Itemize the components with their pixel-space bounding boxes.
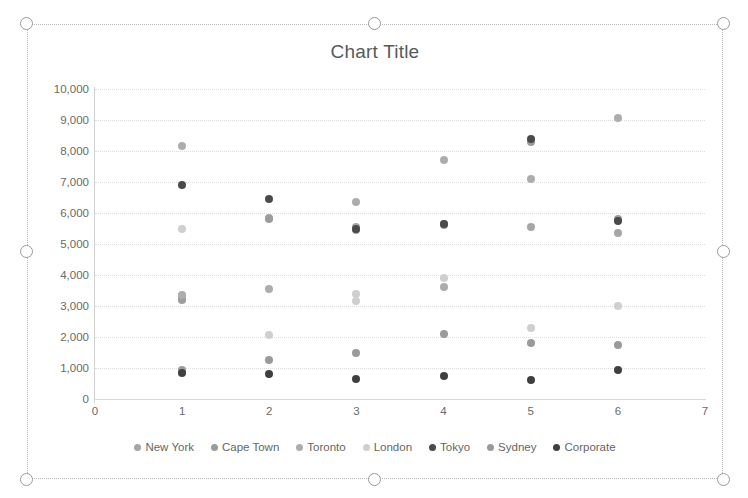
legend-item-toronto[interactable]: Toronto: [296, 442, 345, 454]
chart-title[interactable]: Chart Title: [27, 41, 723, 63]
gridline: [95, 89, 705, 90]
legend-label: New York: [145, 442, 194, 454]
data-point-toronto[interactable]: [178, 291, 186, 299]
data-point-london[interactable]: [614, 302, 622, 310]
x-axis-tick-label: 4: [440, 405, 446, 417]
data-point-tokyo[interactable]: [265, 195, 273, 203]
x-axis-tick-label: 1: [179, 405, 185, 417]
data-point-london[interactable]: [527, 324, 535, 332]
y-axis-tick-label: 5,000: [31, 238, 89, 250]
data-point-corporate[interactable]: [614, 366, 622, 374]
legend-marker-icon: [429, 444, 436, 451]
data-point-sydney[interactable]: [527, 339, 535, 347]
data-point-tokyo[interactable]: [527, 135, 535, 143]
chart-object[interactable]: Chart Title 10,0009,0008,0007,0006,0005,…: [27, 24, 723, 479]
y-axis-tick-label: 3,000: [31, 300, 89, 312]
legend-marker-icon: [553, 444, 560, 451]
legend-label: Sydney: [498, 442, 536, 454]
y-axis-tick-label: 2,000: [31, 331, 89, 343]
resize-handle-middle-right[interactable]: [717, 245, 730, 258]
gridline: [95, 182, 705, 183]
data-point-new-york[interactable]: [527, 223, 535, 231]
y-axis-tick-label: 9,000: [31, 114, 89, 126]
data-point-corporate[interactable]: [352, 375, 360, 383]
y-axis-tick-label: 10,000: [31, 83, 89, 95]
legend-item-tokyo[interactable]: Tokyo: [429, 442, 470, 454]
y-axis-tick-label: 0: [31, 393, 89, 405]
gridline: [95, 275, 705, 276]
y-axis-tick-labels: 10,0009,0008,0007,0006,0005,0004,0003,00…: [27, 89, 89, 399]
y-axis-tick-label: 7,000: [31, 176, 89, 188]
legend-marker-icon: [487, 444, 494, 451]
resize-handle-bottom-left[interactable]: [20, 473, 33, 486]
top-edge-artifact: [0, 0, 748, 12]
data-point-tokyo[interactable]: [178, 181, 186, 189]
data-point-sydney[interactable]: [352, 349, 360, 357]
data-point-cape-town[interactable]: [265, 215, 273, 223]
chart-legend[interactable]: New YorkCape TownTorontoLondonTokyoSydne…: [27, 442, 723, 454]
legend-label: Corporate: [564, 442, 615, 454]
data-point-toronto[interactable]: [614, 114, 622, 122]
resize-handle-middle-left[interactable]: [20, 245, 33, 258]
y-axis-tick-label: 8,000: [31, 145, 89, 157]
data-point-sydney[interactable]: [440, 330, 448, 338]
data-point-toronto[interactable]: [440, 283, 448, 291]
data-point-corporate[interactable]: [527, 376, 535, 384]
data-point-tokyo[interactable]: [440, 220, 448, 228]
x-axis-tick-label: 5: [528, 405, 534, 417]
data-point-toronto[interactable]: [178, 142, 186, 150]
data-point-london[interactable]: [178, 225, 186, 233]
plot-area[interactable]: [95, 89, 705, 399]
gridline: [95, 244, 705, 245]
data-point-corporate[interactable]: [440, 372, 448, 380]
x-axis-tick-label: 7: [702, 405, 708, 417]
legend-label: Cape Town: [222, 442, 279, 454]
x-axis-tick-label: 2: [266, 405, 272, 417]
y-axis-tick-label: 1,000: [31, 362, 89, 374]
legend-label: Toronto: [307, 442, 345, 454]
resize-handle-bottom-middle[interactable]: [368, 473, 381, 486]
y-axis-tick-label: 4,000: [31, 269, 89, 281]
y-axis-tick-label: 6,000: [31, 207, 89, 219]
data-point-sydney[interactable]: [614, 341, 622, 349]
data-point-toronto[interactable]: [440, 156, 448, 164]
gridline: [95, 337, 705, 338]
data-point-london[interactable]: [352, 297, 360, 305]
gridline: [95, 151, 705, 152]
x-axis-tick-labels: 01234567: [95, 405, 705, 423]
data-point-london[interactable]: [265, 331, 273, 339]
resize-handle-top-right[interactable]: [717, 17, 730, 30]
x-axis-tick-label: 0: [92, 405, 98, 417]
resize-handle-bottom-right[interactable]: [717, 473, 730, 486]
legend-label: London: [374, 442, 412, 454]
data-point-toronto[interactable]: [265, 285, 273, 293]
legend-marker-icon: [134, 444, 141, 451]
legend-item-london[interactable]: London: [363, 442, 412, 454]
legend-marker-icon: [211, 444, 218, 451]
legend-item-sydney[interactable]: Sydney: [487, 442, 536, 454]
data-point-toronto[interactable]: [527, 175, 535, 183]
data-point-toronto[interactable]: [352, 198, 360, 206]
gridline: [95, 213, 705, 214]
legend-label: Tokyo: [440, 442, 470, 454]
data-point-tokyo[interactable]: [614, 217, 622, 225]
legend-item-new-york[interactable]: New York: [134, 442, 194, 454]
x-axis-tick-label: 3: [353, 405, 359, 417]
legend-marker-icon: [363, 444, 370, 451]
legend-item-corporate[interactable]: Corporate: [553, 442, 615, 454]
data-point-sydney[interactable]: [265, 356, 273, 364]
data-point-corporate[interactable]: [178, 369, 186, 377]
resize-handle-top-middle[interactable]: [368, 17, 381, 30]
x-axis-line: [95, 399, 706, 400]
data-point-new-york[interactable]: [614, 229, 622, 237]
data-point-tokyo[interactable]: [352, 225, 360, 233]
data-point-london[interactable]: [440, 274, 448, 282]
legend-marker-icon: [296, 444, 303, 451]
legend-item-cape-town[interactable]: Cape Town: [211, 442, 279, 454]
resize-handle-top-left[interactable]: [20, 17, 33, 30]
data-point-corporate[interactable]: [265, 370, 273, 378]
x-axis-tick-label: 6: [615, 405, 621, 417]
